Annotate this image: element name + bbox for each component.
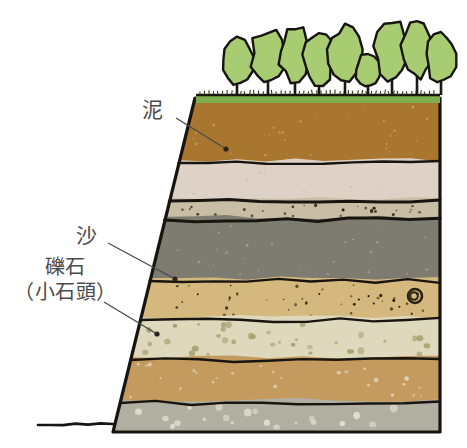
ground-surface-line-group (38, 423, 113, 425)
label-mud-text: 泥 (142, 98, 164, 122)
label-mud: 泥 (142, 98, 164, 122)
ground-surface-line (38, 423, 113, 425)
tree-canopy (223, 37, 254, 85)
gray-clay-layer-fill (149, 215, 444, 286)
tree-line-group (223, 21, 456, 95)
label-gravel-text-line2: （小石頭） (14, 281, 117, 304)
label-sand-text: 沙 (76, 224, 98, 248)
snail-fossil-dot (416, 293, 419, 296)
topsoil-brown-layer-fill (178, 98, 444, 168)
leader-dot-gravel (154, 331, 159, 336)
tree-5 (327, 24, 363, 95)
label-sand: 沙 (76, 224, 98, 248)
illustration-canvas: 泥 沙 礫石 （小石頭） (0, 0, 467, 448)
leader-dot-mud (223, 146, 228, 151)
tree-canopy (427, 32, 457, 82)
gray-clay-layer (149, 215, 444, 286)
soil-layers-diagram (0, 0, 467, 448)
leader-dot-sand (172, 276, 177, 281)
topsoil-brown-layer (178, 98, 444, 168)
tree-9 (427, 32, 457, 95)
label-gravel-text-line1: 礫石 (45, 255, 86, 279)
sediment-layers-group (112, 98, 444, 437)
label-gravel: 礫石 （小石頭） (14, 256, 117, 304)
